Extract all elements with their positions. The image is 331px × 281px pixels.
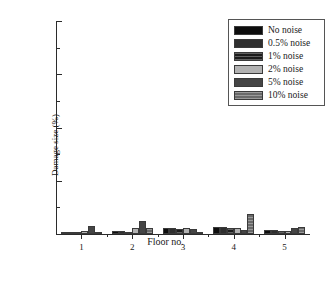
bar — [271, 230, 278, 234]
legend-item[interactable]: 2% noise — [234, 63, 320, 75]
bar — [264, 230, 271, 234]
bar — [234, 228, 241, 234]
legend-swatch-icon — [234, 52, 263, 61]
legend-swatch-icon — [234, 78, 263, 87]
legend-swatch-icon — [234, 39, 263, 48]
bar — [298, 227, 305, 234]
legend-label: 2% noise — [268, 64, 303, 75]
bar — [278, 231, 285, 234]
legend: No noise0.5% noise1% noise2% noise5% noi… — [228, 19, 325, 106]
legend-item[interactable]: 5% noise — [234, 76, 320, 88]
bar — [68, 232, 75, 234]
bar — [112, 231, 119, 234]
bar — [163, 228, 170, 234]
bar — [197, 232, 204, 234]
bar — [75, 232, 82, 234]
legend-swatch-icon — [234, 91, 263, 100]
bar — [247, 214, 254, 234]
bar — [125, 232, 132, 234]
bar — [176, 229, 183, 234]
bar — [291, 228, 298, 234]
bar — [95, 232, 102, 234]
y-axis-title: Damage size (%) — [50, 114, 60, 176]
bar-chart-figure: 05101520 12345 Damage size (%) Floor no.… — [0, 0, 331, 281]
legend-item[interactable]: 0.5% noise — [234, 37, 320, 49]
legend-label: 0.5% noise — [268, 38, 310, 49]
bar — [285, 231, 292, 234]
x-axis-title: Floor no. — [0, 236, 331, 247]
bar — [132, 228, 139, 234]
bar — [220, 227, 227, 234]
y-tick-mark — [57, 234, 62, 235]
legend-item[interactable]: No noise — [234, 24, 320, 36]
bar — [169, 228, 176, 234]
bar — [213, 227, 220, 234]
bar — [139, 221, 146, 234]
legend-swatch-icon — [234, 26, 263, 35]
legend-item[interactable]: 1% noise — [234, 50, 320, 62]
legend-swatch-icon — [234, 65, 263, 74]
bar — [241, 230, 248, 234]
bar — [146, 228, 153, 234]
bar — [88, 226, 95, 234]
legend-item[interactable]: 10% noise — [234, 89, 320, 101]
legend-label: No noise — [268, 25, 302, 36]
bar — [61, 232, 68, 234]
legend-label: 5% noise — [268, 77, 303, 88]
bar — [119, 231, 126, 234]
bar — [183, 228, 190, 234]
bar — [190, 229, 197, 234]
legend-label: 10% noise — [268, 90, 308, 101]
bar — [227, 228, 234, 234]
bar — [81, 231, 88, 234]
legend-label: 1% noise — [268, 51, 303, 62]
